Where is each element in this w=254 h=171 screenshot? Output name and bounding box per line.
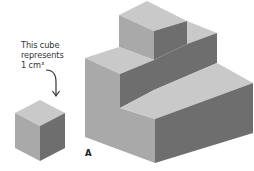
unit-cube bbox=[15, 100, 65, 161]
diagram-canvas bbox=[0, 0, 254, 171]
curved-arrow-icon bbox=[46, 70, 60, 96]
staircase-solid bbox=[85, 1, 253, 163]
figure-label: A bbox=[85, 148, 92, 158]
